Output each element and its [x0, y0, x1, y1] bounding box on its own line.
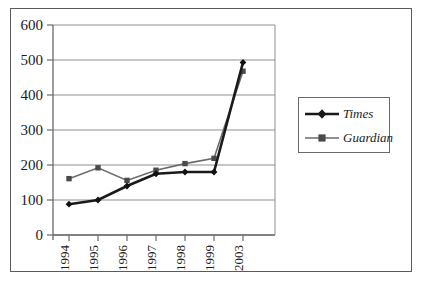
- line-chart-figure: 600 500 400 300 200 100 0 1994 1995 1996…: [0, 0, 424, 287]
- guardian-markers: [66, 69, 245, 184]
- axes-group: [53, 25, 275, 240]
- y-axis-tick-labels: 600 500 400 300 200 100 0: [21, 17, 44, 243]
- legend-label-guardian: Guardian: [343, 130, 393, 146]
- data-point-marker: [66, 176, 71, 181]
- ytick-label-400: 400: [21, 87, 44, 103]
- data-point-marker: [95, 165, 100, 170]
- times-line: [69, 62, 243, 204]
- ytick-label-200: 200: [21, 157, 44, 173]
- legend-swatch-guardian-icon: [304, 130, 340, 146]
- legend-entry-guardian: Guardian: [299, 126, 391, 150]
- data-point-marker: [182, 169, 189, 176]
- y-axis-ticks: [47, 25, 53, 235]
- gridlines-group: [53, 25, 275, 235]
- xtick-label-1994: 1994: [57, 245, 72, 272]
- ytick-label-500: 500: [21, 52, 44, 68]
- xtick-label-1998: 1998: [173, 245, 188, 271]
- times-markers: [66, 59, 247, 208]
- legend-label-times: Times: [343, 106, 373, 122]
- data-point-marker: [182, 161, 187, 166]
- data-point-marker: [211, 169, 218, 176]
- chart-legend: Times Guardian: [298, 97, 390, 153]
- series-guardian: [66, 69, 245, 184]
- x-axis-ticks: [69, 235, 243, 241]
- legend-entry-times: Times: [299, 102, 391, 126]
- xtick-label-1996: 1996: [115, 245, 130, 272]
- ytick-label-600: 600: [21, 17, 44, 33]
- xtick-label-1997: 1997: [144, 245, 159, 272]
- xtick-label-2003: 2003: [231, 245, 246, 271]
- xtick-label-1999: 1999: [202, 245, 217, 271]
- x-axis-tick-labels: 1994 1995 1996 1997 1998 1999 2003: [57, 245, 246, 272]
- legend-swatch-times-icon: [304, 106, 340, 122]
- ytick-label-300: 300: [21, 122, 44, 138]
- data-point-marker: [124, 178, 129, 183]
- ytick-label-100: 100: [21, 192, 44, 208]
- data-point-marker: [66, 201, 73, 208]
- ytick-label-0: 0: [36, 227, 44, 243]
- series-times: [66, 59, 247, 208]
- xtick-label-1995: 1995: [86, 245, 101, 271]
